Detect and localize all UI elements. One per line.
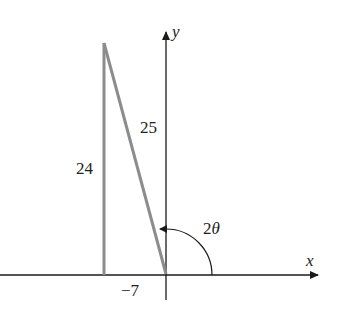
hypotenuse-label: 25 xyxy=(140,119,157,136)
diagram-canvas xyxy=(0,0,339,320)
triangle xyxy=(104,43,166,275)
y-axis-label: y xyxy=(172,23,180,40)
horizontal-length-label: −7 xyxy=(121,282,139,299)
hypotenuse xyxy=(104,43,166,274)
angle-symbol: θ xyxy=(212,219,220,238)
angle-coefficient: 2 xyxy=(203,219,212,238)
vertical-leg-label: 24 xyxy=(76,160,93,177)
x-axis-label: x xyxy=(306,252,314,269)
angle-label: 2θ xyxy=(203,220,220,237)
